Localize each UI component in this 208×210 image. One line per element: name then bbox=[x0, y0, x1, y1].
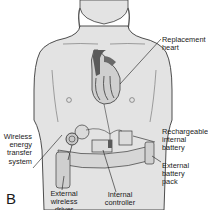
label-rechargeable-internal-battery: Rechargeable internal battery bbox=[162, 128, 208, 153]
label-external-wireless-driver: External wireless driver bbox=[44, 190, 84, 210]
label-internal-controller: Internal controller bbox=[96, 191, 144, 207]
torso bbox=[34, 26, 172, 210]
label-external-battery-pack: External battery pack bbox=[162, 162, 189, 187]
external-battery-pack bbox=[145, 142, 154, 164]
rechargeable-internal-battery bbox=[119, 131, 132, 145]
panel-letter: B bbox=[6, 190, 16, 207]
head bbox=[79, 0, 130, 30]
label-wireless-energy-transfer-system: Wireless energy transfer system bbox=[4, 133, 32, 166]
label-replacement-heart: Replacement heart bbox=[162, 36, 206, 52]
